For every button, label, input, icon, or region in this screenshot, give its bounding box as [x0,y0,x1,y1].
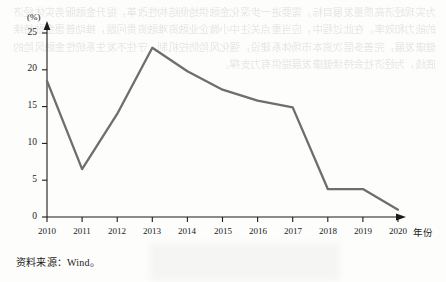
figure-page: 为实现经济高质量发展目标，需要进一步深化金融供给侧结构性改革，提升金融服务实体经… [0,0,446,282]
x-tick-label-2016: 2016 [238,226,278,236]
y-tick-label-0: 0 [15,211,37,221]
x-tick-label-2012: 2012 [97,226,137,236]
data-series-line [47,48,398,210]
source-note-suffix: 。 [90,257,100,268]
line-chart: (%) 0 5 10 15 20 25 2010 2011 2012 2013 … [0,0,446,250]
source-note: 资料来源：Wind。 [16,254,100,269]
y-tick-label-15: 15 [15,100,37,110]
x-tick-label-2014: 2014 [167,226,207,236]
y-tick-label-5: 5 [15,174,37,184]
x-tick-label-2015: 2015 [203,226,243,236]
y-axis-ticks [42,33,47,217]
chart-canvas [0,0,446,250]
x-tick-label-2013: 2013 [132,226,172,236]
x-tick-label-2011: 2011 [62,226,102,236]
source-note-value: Wind [67,257,90,268]
x-tick-label-2010: 2010 [27,226,67,236]
x-axis-ticks [47,217,398,222]
y-axis-unit-label: (%) [27,12,41,22]
y-tick-label-10: 10 [15,137,37,147]
source-note-prefix: 资料来源： [16,257,67,268]
x-tick-label-2020: 2020 [378,226,418,236]
x-tick-label-2019: 2019 [343,226,383,236]
x-tick-label-2017: 2017 [273,226,313,236]
y-tick-label-20: 20 [15,63,37,73]
y-tick-label-25: 25 [15,27,37,37]
x-axis-title: 年份 [413,225,433,239]
x-tick-label-2018: 2018 [308,226,348,236]
y-axis-arrow [44,21,51,30]
